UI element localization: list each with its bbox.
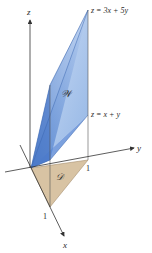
upper-surface-label: z = 3x + 5y: [90, 6, 128, 15]
domain-region: [31, 160, 88, 207]
y-tick-label: 1: [86, 164, 90, 173]
lower-surface-label: z = x + y: [90, 110, 120, 119]
x-tick-label: 1: [43, 212, 47, 221]
x-axis-label: x: [62, 240, 67, 250]
diagram-canvas: z y x 1 1 𝒲 𝒟 z = 3x + 5y z = x + y: [0, 0, 152, 253]
solid-region: [31, 10, 88, 168]
y-axis-label: y: [136, 143, 141, 153]
z-axis-label: z: [26, 7, 31, 17]
